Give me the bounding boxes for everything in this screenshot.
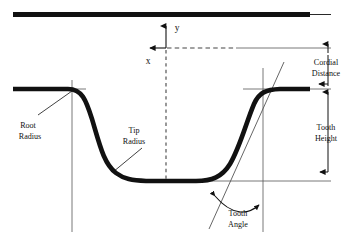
tooth-height-label-line1: Tooth: [317, 123, 336, 132]
diagram-canvas: y x: [0, 0, 352, 245]
tip-radius-leader: [113, 148, 142, 172]
annotation-tooth-height: Tooth Height: [315, 123, 338, 143]
y-axis-label: y: [175, 23, 180, 33]
annotation-tip-radius: Tip Radius: [123, 126, 145, 146]
annotation-root-radius: Root Radius: [19, 121, 41, 141]
root-radius-label-line1: Root: [20, 121, 36, 130]
cordial-distance-label-line1: Cordial: [314, 58, 339, 67]
root-radius-label-line2: Radius: [19, 132, 41, 141]
x-axis-label: x: [146, 56, 151, 66]
leader-lines: [38, 91, 142, 172]
tip-radius-label-line2: Radius: [123, 137, 145, 146]
tooth-angle-label-line1: Tooth: [229, 209, 248, 218]
annotation-cordial-distance: Cordial Distance: [312, 58, 341, 78]
tooth-height-label-line2: Height: [315, 134, 338, 143]
tip-radius-label-line1: Tip: [129, 126, 140, 135]
annotation-tooth-angle: Tooth Angle: [228, 209, 248, 229]
root-radius-leader: [38, 91, 72, 115]
tooth-profile-diagram: y x: [0, 0, 352, 245]
tooth-height-dimension: [320, 92, 328, 172]
tooth-angle-tangent-line: [209, 62, 284, 229]
cordial-distance-label-line2: Distance: [312, 69, 341, 78]
tooth-angle-label-line2: Angle: [228, 220, 248, 229]
